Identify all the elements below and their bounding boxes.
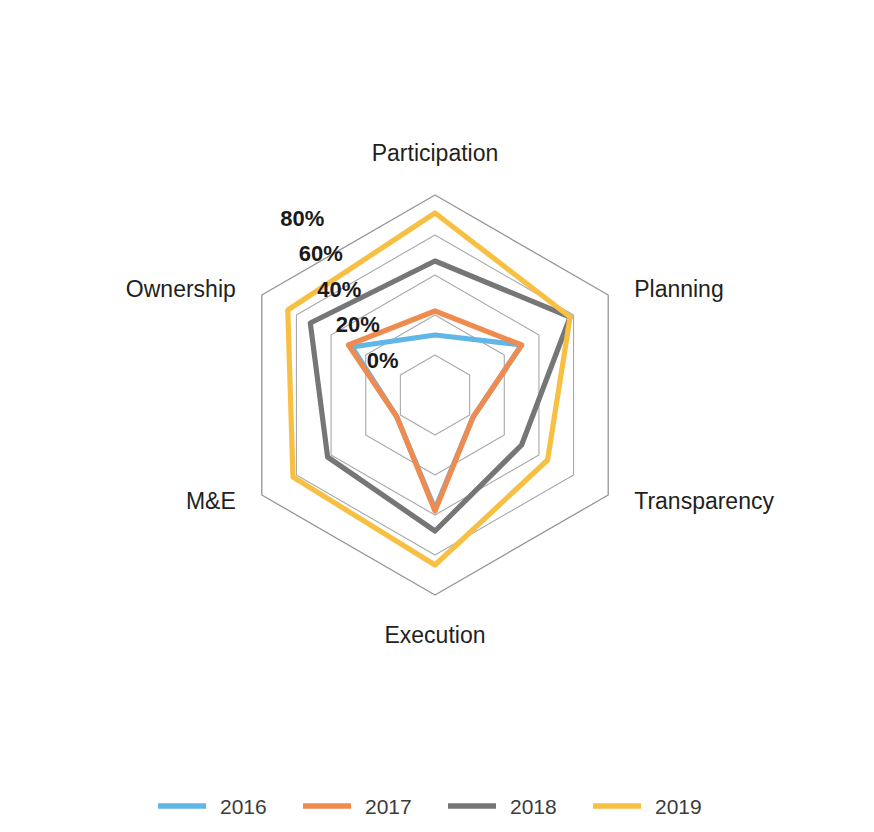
axis-label-execution: Execution (384, 622, 485, 648)
tick-label-80: 80% (280, 206, 324, 231)
radar-chart-svg: 0%20%40%60%80% ParticipationPlanningTran… (0, 0, 874, 832)
axis-label-transparency: Transparency (634, 488, 774, 514)
radar-chart: 0%20%40%60%80% ParticipationPlanningTran… (0, 0, 874, 832)
legend-label-2017: 2017 (365, 795, 412, 818)
grid-ring-0 (400, 355, 469, 435)
axis-label-m-e: M&E (186, 488, 236, 514)
tick-label-20: 20% (336, 312, 380, 337)
legend-label-2019: 2019 (655, 795, 702, 818)
legend-label-2018: 2018 (510, 795, 557, 818)
axis-label-participation: Participation (372, 140, 499, 166)
axis-labels: ParticipationPlanningTransparencyExecuti… (126, 140, 775, 648)
tick-label-40: 40% (317, 277, 361, 302)
axis-label-planning: Planning (634, 276, 724, 302)
tick-label-60: 60% (299, 241, 343, 266)
axis-label-ownership: Ownership (126, 276, 236, 302)
legend-label-2016: 2016 (220, 795, 267, 818)
chart-legend: 2016201720182019 (158, 795, 702, 818)
tick-label-0: 0% (367, 348, 399, 373)
